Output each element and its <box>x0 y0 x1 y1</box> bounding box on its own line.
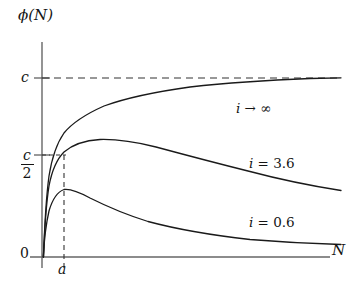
y-tick-label-c: c <box>21 70 29 84</box>
curve-label-i-0-6: i = 0.6 <box>249 214 295 230</box>
curve-label-i-3-6: i = 3.6 <box>249 155 295 171</box>
curve-label-i-0-6-rest: = 0.6 <box>253 214 294 230</box>
origin-label: 0 <box>20 246 29 260</box>
x-axis-label: N <box>332 243 345 258</box>
c-half-numerator: c <box>18 148 36 163</box>
chart-figure: ϕ(N) N c c 2 0 a i → ∞ i = 3.6 i = 0.6 <box>0 0 364 294</box>
curve-label-i-infinity: i → ∞ <box>236 100 271 116</box>
y-axis-label: ϕ(N) <box>18 8 53 23</box>
curve-label-i-3-6-rest: = 3.6 <box>253 155 294 171</box>
y-tick-label-c-half: c 2 <box>18 148 36 180</box>
curve-i-0-6 <box>43 189 341 257</box>
x-tick-label-a: a <box>58 262 66 276</box>
plot-canvas <box>0 0 364 294</box>
curve-label-i-infinity-rest: → ∞ <box>240 100 271 116</box>
curve-i-infinity <box>44 78 342 257</box>
c-half-denominator: 2 <box>18 166 36 181</box>
curve-i-3-6 <box>44 139 342 257</box>
